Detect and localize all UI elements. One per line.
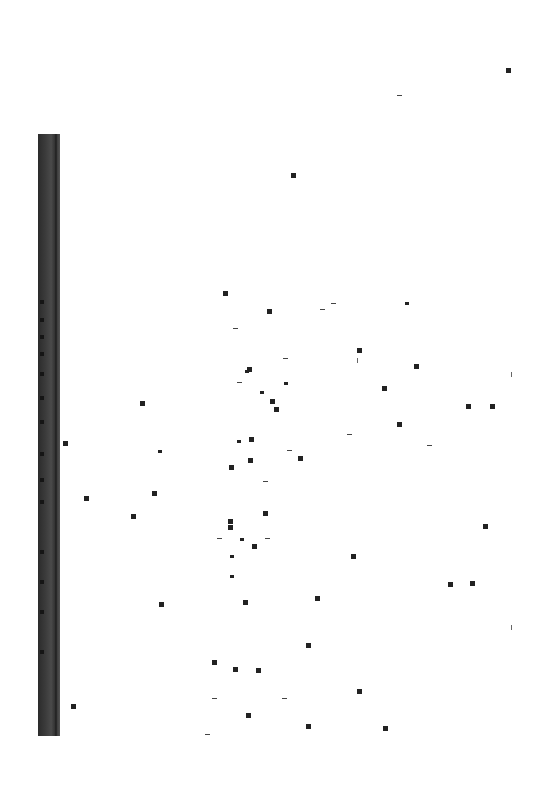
speck — [283, 358, 288, 359]
binding-mark — [40, 610, 44, 614]
speck — [248, 458, 253, 463]
binding-mark — [40, 580, 44, 584]
speck — [427, 445, 432, 446]
speck — [260, 391, 264, 394]
speck — [245, 370, 249, 373]
speck — [243, 600, 248, 605]
speck — [466, 404, 471, 409]
speck — [237, 382, 242, 383]
speck — [357, 348, 362, 353]
speck — [152, 491, 157, 496]
speck — [158, 450, 162, 453]
speck — [230, 575, 234, 578]
speck — [382, 386, 387, 391]
speck — [71, 704, 76, 709]
speck — [223, 291, 228, 296]
speck — [287, 450, 292, 451]
speck — [397, 95, 402, 96]
speck — [351, 554, 356, 559]
speck — [265, 538, 270, 539]
speck — [240, 538, 244, 541]
speck — [506, 68, 511, 73]
speck — [298, 456, 303, 461]
speck — [263, 511, 268, 516]
binding-mark — [40, 318, 44, 322]
speck — [490, 404, 495, 409]
speck — [256, 668, 261, 673]
speck — [131, 514, 136, 519]
binding-mark — [40, 500, 44, 504]
speck — [228, 525, 233, 530]
speck — [159, 602, 164, 607]
speck — [347, 434, 352, 435]
speck — [331, 303, 336, 304]
speck — [282, 698, 287, 699]
speck — [511, 625, 512, 630]
binding-mark — [40, 372, 44, 376]
speck — [306, 643, 311, 648]
speck — [483, 524, 488, 529]
speck — [397, 422, 402, 427]
speck — [233, 667, 238, 672]
binding-mark — [40, 452, 44, 456]
speck — [249, 437, 254, 442]
binding-mark — [40, 335, 44, 339]
speck — [320, 309, 325, 310]
speck — [263, 481, 268, 482]
speck — [246, 713, 251, 718]
speck — [212, 660, 217, 665]
speck — [233, 328, 238, 329]
binding-mark — [40, 650, 44, 654]
speck — [357, 358, 358, 363]
speck — [63, 441, 68, 446]
speck — [228, 519, 233, 524]
speck — [217, 538, 222, 539]
speck — [237, 440, 241, 443]
speck — [357, 689, 362, 694]
speck — [383, 726, 388, 731]
speck — [405, 302, 409, 305]
binding-edge — [55, 134, 57, 736]
speck — [284, 382, 288, 385]
speck — [205, 734, 210, 735]
binding-mark — [40, 396, 44, 400]
scanned-page — [0, 0, 543, 808]
binding-mark — [40, 478, 44, 482]
speck — [212, 698, 217, 699]
speck — [448, 582, 453, 587]
speck — [252, 544, 257, 549]
speck — [306, 724, 311, 729]
binding-mark — [40, 300, 44, 304]
speck — [470, 581, 475, 586]
binding-mark — [40, 420, 44, 424]
speck — [414, 364, 419, 369]
speck — [291, 173, 296, 178]
speck — [229, 465, 234, 470]
speck — [315, 596, 320, 601]
speck — [140, 401, 145, 406]
speck — [511, 372, 512, 377]
speck — [274, 407, 279, 412]
speck — [84, 496, 89, 501]
binding-mark — [40, 550, 44, 554]
binding-mark — [40, 352, 44, 356]
speck — [230, 555, 234, 558]
speck — [267, 309, 272, 314]
speck — [270, 399, 275, 404]
